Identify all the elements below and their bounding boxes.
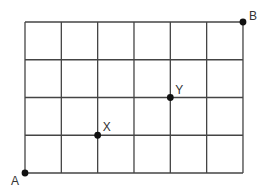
point-dot-icon	[94, 132, 101, 139]
point-label: A	[11, 174, 19, 188]
point-label: B	[249, 9, 257, 23]
point-dot-icon	[167, 94, 174, 101]
point-label: X	[103, 120, 111, 134]
point-dot-icon	[240, 19, 247, 26]
point-dot-icon	[22, 170, 29, 177]
grid-lines	[25, 22, 243, 173]
grid-svg: AXYB	[0, 0, 270, 190]
point-label: Y	[175, 83, 183, 97]
point-b: B	[240, 9, 257, 25]
point-a: A	[11, 170, 28, 188]
grid-diagram: AXYB	[0, 0, 270, 190]
